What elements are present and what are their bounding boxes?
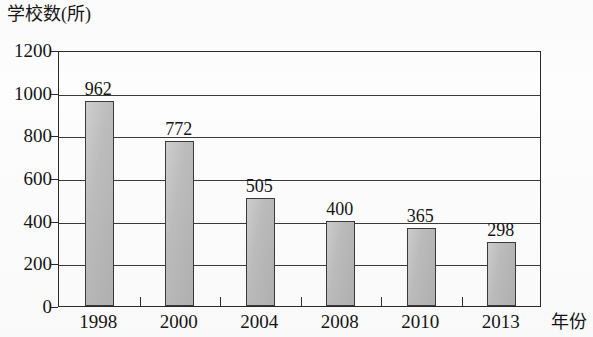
y-axis-tick-label: 800: [0, 126, 52, 145]
bar-value-label: 298: [461, 221, 541, 239]
y-axis-tick-mark: [51, 51, 58, 52]
x-axis-tick-mark: [220, 297, 221, 306]
x-axis-tick-mark: [301, 297, 302, 306]
bar: [246, 198, 275, 306]
gridline: [59, 137, 540, 138]
bar: [85, 101, 114, 306]
bar-shading: [327, 222, 354, 305]
y-axis-caption: 学校数(所): [7, 2, 91, 26]
bar-value-label: 400: [300, 200, 380, 218]
gridline: [59, 265, 540, 266]
bar-value-label: 365: [380, 207, 460, 225]
bar: [326, 221, 355, 306]
bar-shading: [86, 102, 113, 305]
bar-shading: [408, 229, 435, 305]
x-axis-tick-label: 2004: [214, 312, 304, 332]
y-axis-tick-label: 0: [0, 297, 52, 316]
gridline: [59, 180, 540, 181]
y-axis-tick-mark: [51, 179, 58, 180]
y-axis-tick-mark: [51, 94, 58, 95]
x-axis-tick-label: 2013: [456, 312, 546, 332]
y-axis-tick-label: 600: [0, 169, 52, 188]
chart-figure: 学校数(所) 020040060080010001200 96277250540…: [0, 0, 593, 337]
bar: [407, 228, 436, 306]
x-axis-tick-label: 2008: [295, 312, 385, 332]
y-axis-tick-label: 200: [0, 254, 52, 273]
y-axis-tick-label: 400: [0, 212, 52, 231]
y-axis-tick-mark: [51, 136, 58, 137]
bar-shading: [247, 199, 274, 305]
x-axis-caption: 年份: [551, 312, 587, 332]
x-axis-tick-mark: [140, 297, 141, 306]
x-axis-tick-mark: [381, 297, 382, 306]
bar-shading: [488, 243, 515, 305]
bar-value-label: 505: [219, 177, 299, 195]
bar-shading: [166, 142, 193, 305]
x-axis-tick-label: 2000: [134, 312, 224, 332]
y-axis-tick-mark: [51, 222, 58, 223]
y-axis-tick-label: 1000: [0, 84, 52, 103]
bar: [165, 141, 194, 306]
x-axis-tick-label: 1998: [53, 312, 143, 332]
y-axis-tick-label: 1200: [0, 41, 52, 60]
bar-value-label: 962: [58, 80, 138, 98]
x-axis-tick-label: 2010: [375, 312, 465, 332]
y-axis-tick-mark: [51, 307, 58, 308]
bar-value-label: 772: [139, 120, 219, 138]
x-axis-tick-mark: [462, 297, 463, 306]
bar: [487, 242, 516, 306]
y-axis-tick-mark: [51, 264, 58, 265]
